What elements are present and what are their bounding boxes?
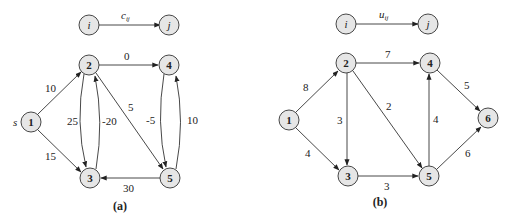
svg-text:i: i [87,19,90,31]
edge-label: 5 [464,79,470,91]
edge-a-4-5 [160,74,166,167]
edge-label: 5 [128,101,134,113]
source-label: s [13,116,17,128]
svg-text:4: 4 [166,59,172,71]
edge-label: 3 [384,180,390,192]
edge-b-4-6 [437,70,480,111]
svg-text:i: i [344,18,347,30]
svg-text:4: 4 [427,57,433,69]
node-b-1: 1 [279,110,299,130]
edge-a-3-2 [95,76,100,169]
svg-text:3: 3 [87,172,93,184]
edge-label: 0 [124,50,130,62]
edge-b-2-5 [353,71,422,168]
node-b-5: 5 [419,166,439,186]
svg-text:3: 3 [345,170,351,182]
svg-text:5: 5 [167,172,173,184]
edge-label: 2 [386,100,392,112]
edge-label: 10 [45,82,57,94]
edge-label: 7 [385,48,391,60]
legend-b: uij i j [336,8,438,34]
legend-edge-label: uij [379,8,388,22]
edge-label: 3 [337,114,343,126]
node-a-4: 4 [159,55,179,75]
legend-a: cij i j [79,9,179,35]
node-b-3: 3 [338,166,358,186]
edge-label: 4 [433,113,439,125]
node-b-4: 4 [420,53,440,73]
edge-label: -20 [102,115,117,127]
caption-b: (b) [373,195,388,209]
node-a-5: 5 [160,168,180,188]
network-diagrams: cij i j 10 15 0 25 -20 5 -5 10 30 [0,0,506,220]
node-a-3: 3 [80,168,100,188]
edge-label: -5 [146,114,156,126]
edge-b-5-6 [437,127,481,169]
edge-label: 10 [187,114,199,126]
svg-text:1: 1 [28,116,34,128]
legend-node-i: i [336,14,356,34]
svg-text:6: 6 [485,112,491,124]
legend-node-j: j [418,14,438,34]
edge-label: 30 [123,182,135,194]
svg-text:1: 1 [286,114,292,126]
edge-label: 6 [465,147,471,159]
graph-b: uij i j 8 4 7 3 2 4 5 3 6 1 2 [279,8,498,209]
edge-label: 15 [45,150,57,162]
node-a-1: 1 [21,112,41,132]
svg-text:5: 5 [426,170,432,182]
node-b-2: 2 [336,53,356,73]
edge-label: 25 [67,115,79,127]
caption-a: (a) [113,199,127,213]
edge-label: 4 [305,147,311,159]
node-a-2: 2 [79,55,99,75]
edge-a-2-3 [80,74,86,167]
node-b-6: 6 [478,108,498,128]
edge-a-5-4 [176,76,181,169]
svg-text:2: 2 [343,57,349,69]
legend-node-i: i [79,15,99,35]
legend-node-j: j [159,15,179,35]
edge-label: 8 [303,81,309,93]
svg-text:2: 2 [86,59,92,71]
edge-b-1-3 [296,128,339,170]
graph-a: cij i j 10 15 0 25 -20 5 -5 10 30 [13,9,199,213]
legend-edge-label: cij [121,9,130,23]
